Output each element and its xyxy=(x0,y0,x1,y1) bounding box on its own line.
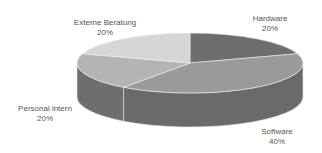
label-software-name: Software xyxy=(261,127,293,137)
label-hardware-value: 20% xyxy=(253,24,288,34)
label-externe-beratung-name: Externe Beratung xyxy=(74,18,136,28)
label-personal-intern-value: 20% xyxy=(18,114,72,124)
label-hardware-name: Hardware xyxy=(253,14,288,24)
label-software-value: 40% xyxy=(261,137,293,147)
label-externe-beratung: Externe Beratung 20% xyxy=(74,18,136,38)
label-personal-intern-name: Personal intern xyxy=(18,104,72,114)
label-personal-intern: Personal intern 20% xyxy=(18,104,72,124)
label-software: Software 40% xyxy=(261,127,293,147)
label-hardware: Hardware 20% xyxy=(253,14,288,34)
label-externe-beratung-value: 20% xyxy=(74,28,136,38)
